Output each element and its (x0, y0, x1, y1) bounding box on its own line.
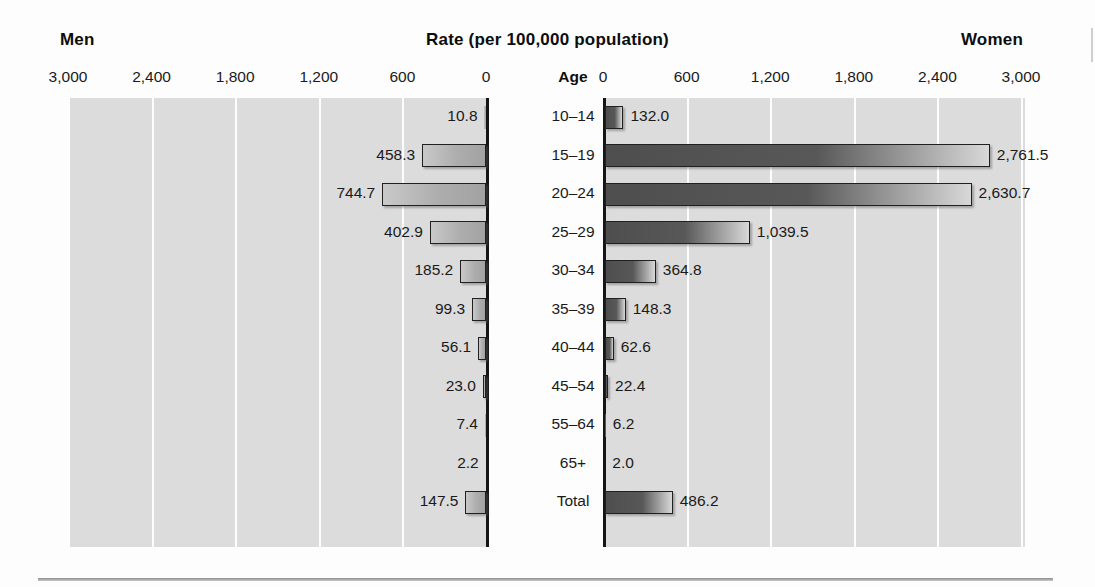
men-bar (382, 183, 486, 206)
men-bar (478, 337, 486, 360)
women-value-label: 2.0 (612, 454, 634, 472)
chart-row: 35–3999.3148.3 (68, 291, 1025, 330)
page-edge-mark (1091, 28, 1093, 62)
men-value-label: 2.2 (457, 454, 479, 472)
men-bar (485, 414, 486, 437)
women-value-label: 486.2 (680, 492, 719, 510)
chart-row: 45–5423.022.4 (68, 368, 1025, 407)
plot-area: 10–1410.8132.015–19458.32,761.520–24744.… (68, 98, 1025, 547)
age-group-label: 35–39 (545, 300, 601, 318)
men-bar (465, 491, 486, 514)
men-value-label: 23.0 (446, 377, 476, 395)
men-axis-tick: 1,200 (299, 68, 338, 86)
men-value-label: 185.2 (414, 261, 453, 279)
women-bar (605, 260, 656, 283)
women-bar (605, 144, 990, 167)
age-group-label: 20–24 (545, 184, 601, 202)
men-bar (422, 144, 486, 167)
chart-row: 65+2.22.0 (68, 445, 1025, 484)
women-axis-tick: 2,400 (918, 68, 957, 86)
men-value-label: 7.4 (456, 415, 478, 433)
age-group-label: 25–29 (545, 223, 601, 241)
women-value-label: 22.4 (615, 377, 645, 395)
age-group-label: 65+ (545, 454, 601, 472)
age-group-label: 55–64 (545, 415, 601, 433)
women-bar (605, 491, 673, 514)
chart-row: 20–24744.72,630.7 (68, 175, 1025, 214)
women-axis-tick: 0 (599, 68, 608, 86)
women-value-label: 2,761.5 (997, 146, 1049, 164)
age-group-label: 15–19 (545, 146, 601, 164)
women-header-label: Women (961, 30, 1023, 50)
women-value-label: 1,039.5 (757, 223, 809, 241)
women-bar (605, 337, 614, 360)
men-value-label: 458.3 (376, 146, 415, 164)
men-axis-tick: 2,400 (132, 68, 171, 86)
chart-row: 40–4456.162.6 (68, 329, 1025, 368)
chart-row: Total147.5486.2 (68, 483, 1025, 522)
women-value-label: 148.3 (633, 300, 672, 318)
bottom-divider (38, 578, 1053, 581)
age-group-label: 40–44 (545, 338, 601, 356)
women-value-label: 62.6 (621, 338, 651, 356)
men-value-label: 147.5 (420, 492, 459, 510)
chart-row: 10–1410.8132.0 (68, 98, 1025, 137)
men-bar (430, 221, 486, 244)
age-group-label: 10–14 (545, 107, 601, 125)
chart-row: 15–19458.32,761.5 (68, 137, 1025, 176)
women-bar (605, 414, 606, 437)
chart-row: 55–647.46.2 (68, 406, 1025, 445)
women-axis-tick: 3,000 (1002, 68, 1041, 86)
men-value-label: 56.1 (441, 338, 471, 356)
men-value-label: 99.3 (435, 300, 465, 318)
age-group-label: Total (545, 492, 601, 510)
women-bar (605, 183, 972, 206)
chart-row: 25–29402.91,039.5 (68, 214, 1025, 253)
men-value-label: 402.9 (384, 223, 423, 241)
men-bar (472, 298, 486, 321)
women-value-label: 2,630.7 (979, 184, 1031, 202)
women-axis-tick: 1,800 (834, 68, 873, 86)
men-value-label: 10.8 (447, 107, 477, 125)
age-group-label: 45–54 (545, 377, 601, 395)
chart-row: 30–34185.2364.8 (68, 252, 1025, 291)
men-bar (484, 106, 486, 129)
men-axis-tick: 1,800 (216, 68, 255, 86)
women-value-label: 132.0 (630, 107, 669, 125)
women-bar (605, 298, 626, 321)
men-axis-tick: 3,000 (49, 68, 88, 86)
chart-title: Rate (per 100,000 population) (0, 30, 1095, 50)
women-value-label: 6.2 (613, 415, 635, 433)
age-group-label: 30–34 (545, 261, 601, 279)
men-axis-tick: 0 (482, 68, 491, 86)
women-bar (605, 221, 750, 244)
chart-page: Men Rate (per 100,000 population) Women … (0, 0, 1095, 587)
women-value-label: 364.8 (663, 261, 702, 279)
men-value-label: 744.7 (336, 184, 375, 202)
women-bar (605, 375, 608, 398)
women-axis-tick: 600 (674, 68, 700, 86)
women-axis-tick: 1,200 (751, 68, 790, 86)
men-bar (460, 260, 486, 283)
age-column-header: Age (545, 68, 601, 86)
men-bar (483, 375, 486, 398)
women-bar (605, 106, 623, 129)
men-axis-tick: 600 (389, 68, 415, 86)
